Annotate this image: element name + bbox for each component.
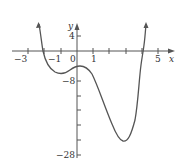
x-tick-label-1: 1 xyxy=(91,55,97,64)
plot-area xyxy=(0,0,185,167)
x-axis-label: x xyxy=(169,55,174,64)
y-tick-label-neg28: −28 xyxy=(56,151,75,160)
y-axis-arrow-icon xyxy=(75,23,80,30)
curve-left-arrow-icon xyxy=(36,22,41,28)
y-tick-label-4: 4 xyxy=(69,32,75,41)
function-curve xyxy=(39,24,146,141)
curve-right-arrow-icon xyxy=(144,22,149,28)
x-tick-label-neg3: −3 xyxy=(14,55,27,64)
x-tick-label-neg1: −1 xyxy=(48,55,61,64)
x-tick-label-5: 5 xyxy=(155,55,161,64)
x-axis-arrow-icon xyxy=(168,49,175,54)
y-ticks xyxy=(77,36,81,155)
x-tick-label-0: 0 xyxy=(70,55,76,64)
y-axis-label: y xyxy=(68,22,73,31)
y-tick-label-neg8: −8 xyxy=(62,77,75,86)
